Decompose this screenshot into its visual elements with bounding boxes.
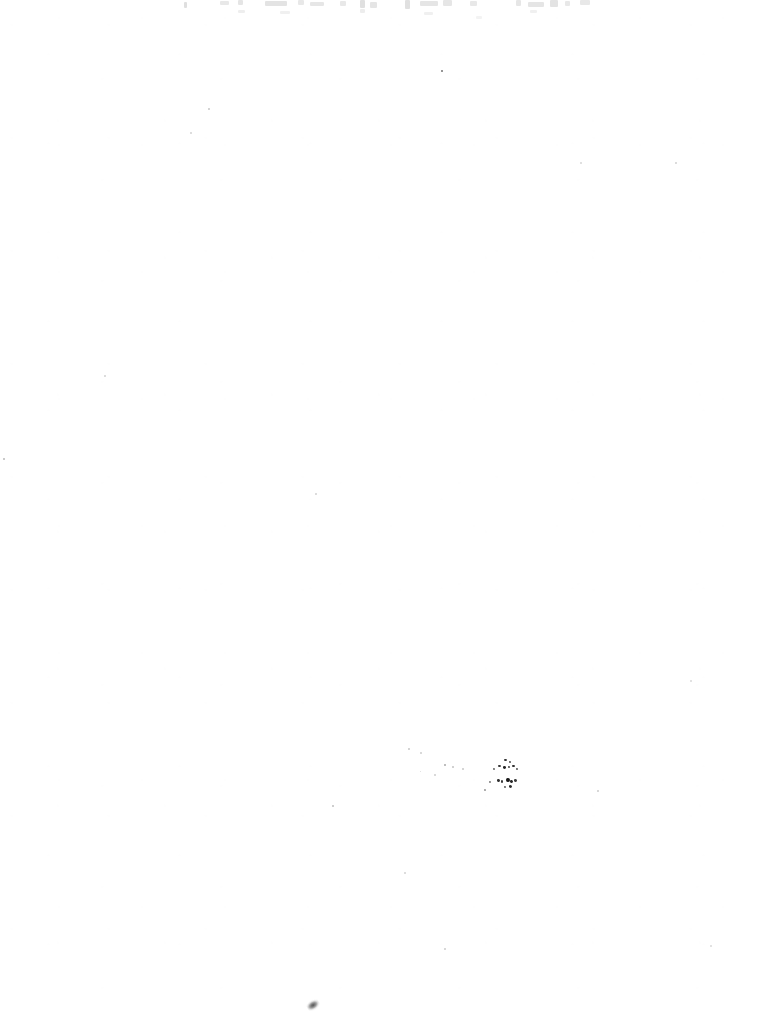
speck-upper-left-a <box>208 108 210 110</box>
speck-right-lower <box>597 790 599 792</box>
speck-pre-cluster-g <box>420 771 421 772</box>
speck-pre-cluster-a <box>408 748 410 750</box>
ink-blot <box>509 785 512 788</box>
ink-blot <box>512 765 515 767</box>
speck-left-edge <box>3 458 5 460</box>
speck-upper-right-b <box>675 162 677 164</box>
speck-right-mid <box>690 680 692 682</box>
speck-pre-cluster-d <box>452 766 454 768</box>
ink-blot <box>504 759 507 761</box>
speck-upper-left-b <box>190 132 192 134</box>
ink-blot <box>484 789 486 791</box>
speck-right-bottom <box>710 945 712 947</box>
speck-top-center <box>441 70 443 72</box>
ink-blot <box>498 765 501 767</box>
ink-blot <box>509 761 511 763</box>
ink-blot <box>510 780 513 783</box>
bottom-ink-smudge <box>305 997 322 1013</box>
speck-pre-cluster-c <box>444 764 446 766</box>
ink-blot <box>514 779 517 782</box>
speck-upper-right-a <box>580 162 582 164</box>
ink-blot <box>493 768 495 770</box>
speck-center-low <box>404 872 406 874</box>
ink-blot <box>503 766 506 769</box>
speck-pre-cluster-e <box>462 768 464 770</box>
speck-pre-cluster-b <box>420 752 422 754</box>
ink-blot <box>489 781 491 783</box>
ink-blot <box>516 768 518 770</box>
speck-center-mid <box>315 493 317 495</box>
ink-blot <box>497 779 500 782</box>
scanned-page <box>0 0 771 1020</box>
speck-below-cluster <box>332 805 334 807</box>
speck-left-mid-a <box>104 375 106 377</box>
ink-blot <box>504 786 506 788</box>
ink-blot <box>501 780 503 783</box>
ink-artifact-layer <box>0 0 771 1020</box>
ink-blot <box>508 766 510 768</box>
speck-center-bottom <box>444 948 446 950</box>
speck-pre-cluster-f <box>434 774 436 776</box>
